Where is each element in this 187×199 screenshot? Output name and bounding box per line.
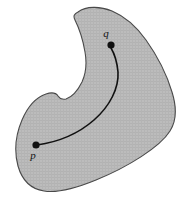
point-p-label: p <box>29 149 36 161</box>
region-diagram: p q <box>0 0 187 199</box>
point-p-dot <box>32 141 39 148</box>
figure-container: p q <box>0 0 187 199</box>
point-q-label: q <box>103 27 109 39</box>
point-q-dot <box>107 41 114 48</box>
